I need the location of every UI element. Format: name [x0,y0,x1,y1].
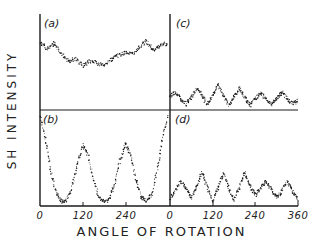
panel-label-b: (b) [43,113,59,126]
series-a [40,39,168,68]
series-d [169,171,298,203]
panel-label-a: (a) [44,17,59,30]
panel-label-c: (c) [176,17,191,30]
x-tick-240: 240 [116,210,137,221]
axes-frame [40,14,298,206]
y-axis-label: SH INTENSITY [5,51,19,170]
x-tick-120: 120 [73,210,94,221]
x-tick-0-right: 0 [167,210,174,221]
x-axis-label: ANGLE OF ROTATION [0,224,323,239]
x-tick-360: 360 [288,210,309,221]
x-ticks [83,200,298,206]
data-points [40,39,298,204]
series-b [40,115,169,204]
panel-label-d: (d) [175,113,191,126]
x-tick-0: 0 [37,210,44,221]
x-tick-240-right: 240 [245,210,266,221]
x-tick-120-right: 120 [203,210,224,221]
series-c [169,83,298,107]
